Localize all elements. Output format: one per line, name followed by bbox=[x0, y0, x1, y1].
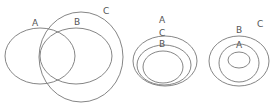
label-a: A bbox=[236, 40, 243, 50]
set-a-ellipse bbox=[228, 52, 250, 68]
set-b-ellipse bbox=[40, 28, 112, 84]
diagram-overlap bbox=[5, 12, 123, 102]
venn-diagrams-canvas: A B C A C B C B A bbox=[0, 0, 270, 104]
label-a: A bbox=[159, 15, 166, 25]
label-a: A bbox=[32, 18, 39, 28]
set-b-ellipse bbox=[143, 51, 183, 83]
label-c: C bbox=[103, 6, 109, 16]
label-c: C bbox=[159, 28, 165, 38]
set-c-ellipse bbox=[39, 12, 123, 102]
venn-diagrams-svg: A B C A C B C B A bbox=[0, 0, 270, 104]
label-b: B bbox=[236, 25, 242, 35]
label-c: C bbox=[257, 19, 263, 29]
label-b: B bbox=[74, 17, 80, 27]
label-b: B bbox=[159, 39, 165, 49]
